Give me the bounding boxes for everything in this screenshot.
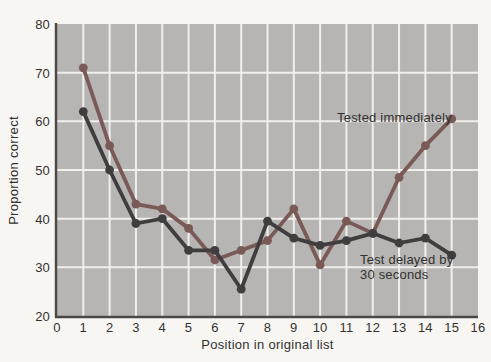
x-tick-label: 4 — [149, 320, 175, 335]
x-tick-label: 5 — [176, 320, 202, 335]
data-point-tested-immediately — [421, 141, 430, 150]
x-tick-label: 16 — [465, 320, 491, 335]
y-tick-label: 80 — [20, 17, 50, 32]
x-tick-label: 0 — [44, 320, 70, 335]
x-tick-label: 15 — [439, 320, 465, 335]
x-tick-label: 6 — [202, 320, 228, 335]
y-tick-label: 60 — [20, 114, 50, 129]
data-point-tested-immediately — [132, 200, 141, 209]
x-tick-label: 12 — [360, 320, 386, 335]
y-axis-title-text: Proportion correct — [6, 116, 21, 225]
data-point-test-delayed-by-30-seconds — [184, 246, 193, 255]
x-tick-label: 2 — [97, 320, 123, 335]
x-axis-title: Position in original list — [57, 337, 478, 352]
data-point-test-delayed-by-30-seconds — [342, 236, 351, 245]
data-point-test-delayed-by-30-seconds — [132, 219, 141, 228]
data-point-tested-immediately — [263, 236, 272, 245]
series-label-test-delayed-line1: Test delayed by — [360, 252, 453, 267]
data-point-test-delayed-by-30-seconds — [368, 229, 377, 238]
x-tick-label: 14 — [412, 320, 438, 335]
x-tick-label: 8 — [255, 320, 281, 335]
data-point-test-delayed-by-30-seconds — [237, 285, 246, 294]
data-point-tested-immediately — [316, 261, 325, 270]
data-point-tested-immediately — [342, 217, 351, 226]
series-label-tested-immediately: Tested immediately — [337, 110, 452, 125]
x-tick-label: 13 — [386, 320, 412, 335]
y-tick-label: 50 — [20, 163, 50, 178]
data-point-tested-immediately — [237, 246, 246, 255]
data-point-tested-immediately — [289, 205, 298, 214]
x-tick-label: 9 — [281, 320, 307, 335]
series-label-test-delayed-line2: 30 seconds — [360, 267, 453, 282]
data-point-tested-immediately — [395, 173, 404, 182]
data-point-test-delayed-by-30-seconds — [158, 214, 167, 223]
y-tick-label: 40 — [20, 212, 50, 227]
y-tick-label: 70 — [20, 66, 50, 81]
serial-position-curve-figure: Proportion correct Position in original … — [0, 0, 491, 362]
x-tick-label: 10 — [307, 320, 333, 335]
x-tick-label: 7 — [228, 320, 254, 335]
data-point-test-delayed-by-30-seconds — [395, 239, 404, 248]
chart-plot-area — [0, 0, 491, 362]
x-tick-label: 1 — [70, 320, 96, 335]
data-point-test-delayed-by-30-seconds — [421, 234, 430, 243]
data-point-tested-immediately — [105, 141, 114, 150]
data-point-test-delayed-by-30-seconds — [289, 234, 298, 243]
data-point-test-delayed-by-30-seconds — [211, 246, 220, 255]
x-tick-label: 11 — [333, 320, 359, 335]
data-point-test-delayed-by-30-seconds — [316, 241, 325, 250]
data-point-test-delayed-by-30-seconds — [79, 107, 88, 116]
data-point-test-delayed-by-30-seconds — [263, 217, 272, 226]
data-point-tested-immediately — [79, 63, 88, 72]
x-tick-label: 3 — [123, 320, 149, 335]
data-point-tested-immediately — [184, 224, 193, 233]
data-point-tested-immediately — [158, 205, 167, 214]
data-point-test-delayed-by-30-seconds — [105, 166, 114, 175]
y-tick-label: 30 — [20, 260, 50, 275]
series-label-test-delayed: Test delayed by 30 seconds — [360, 252, 453, 282]
